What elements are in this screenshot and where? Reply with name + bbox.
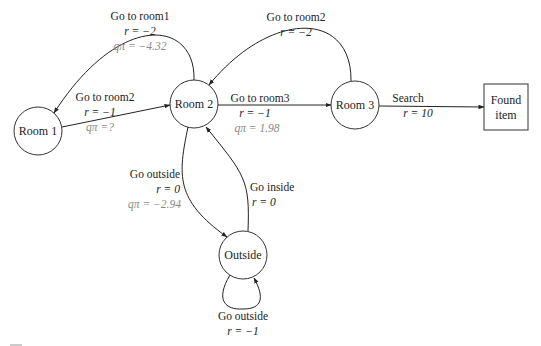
node-room3-label: Room 3 bbox=[336, 98, 374, 112]
diagram-canvas bbox=[0, 0, 541, 346]
edge-room2-to-outside bbox=[182, 127, 227, 237]
edge-label-q-value: qπ = −4.32 bbox=[114, 40, 167, 53]
node-found-label-line1: Found bbox=[491, 93, 522, 107]
edge-label-reward: r = −2 bbox=[280, 26, 312, 39]
edge-label-q-value: qπ = −2.94 bbox=[128, 198, 181, 211]
edge-label-action: Go to room2 bbox=[76, 91, 135, 104]
edge-label-reward: r = 0 bbox=[252, 196, 276, 209]
edge-label-action: Go to room2 bbox=[267, 11, 326, 24]
edge-room1-to-room2 bbox=[62, 105, 170, 127]
edge-outside-to-room2 bbox=[206, 127, 248, 231]
edge-label-action: Go inside bbox=[250, 181, 294, 194]
edge-label-reward: r = −1 bbox=[239, 107, 271, 120]
node-outside-label: Outside bbox=[224, 248, 261, 262]
edge-label-action: Go to room1 bbox=[111, 10, 170, 23]
edge-label-reward: r = 10 bbox=[403, 107, 433, 120]
node-found-item bbox=[484, 84, 528, 130]
edge-label-action: Go outside bbox=[218, 310, 268, 323]
node-found-label-line2: item bbox=[495, 108, 516, 122]
edge-outside-self-loop bbox=[223, 275, 261, 309]
edge-label-reward: r = −1 bbox=[227, 325, 259, 338]
edge-label-action: Go to room3 bbox=[231, 92, 290, 105]
edge-label-reward: r = 0 bbox=[156, 183, 180, 196]
node-room1-label: Room 1 bbox=[19, 124, 57, 138]
node-room2-label: Room 2 bbox=[175, 97, 213, 111]
edge-label-q-value: qπ = 1.98 bbox=[234, 122, 279, 135]
edge-label-reward: r = −2 bbox=[124, 25, 156, 38]
edge-label-action: Go outside bbox=[130, 168, 180, 181]
edge-label-action: Search bbox=[392, 92, 423, 105]
edge-label-reward: r = −1 bbox=[84, 106, 116, 119]
edge-label-q-value: qπ =? bbox=[86, 121, 114, 134]
